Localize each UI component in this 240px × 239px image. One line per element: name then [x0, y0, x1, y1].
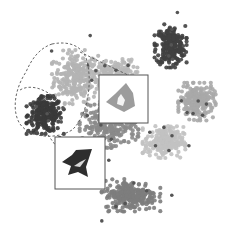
- scatter-point: [162, 22, 166, 26]
- scatter-point: [171, 63, 175, 67]
- scatter-point-outlier: [185, 111, 189, 115]
- scatter-point-outlier: [170, 27, 174, 31]
- scatter-point: [58, 81, 62, 85]
- scatter-point: [131, 65, 135, 69]
- scatter-point: [95, 87, 99, 91]
- scatter-point: [52, 129, 56, 133]
- scatter-point: [136, 127, 140, 131]
- scatter-point: [140, 192, 144, 196]
- scatter-point: [83, 48, 87, 52]
- scatter-point: [118, 201, 122, 205]
- scatter-point: [176, 101, 180, 105]
- scatter-point: [180, 53, 184, 57]
- scatter-point: [160, 36, 164, 40]
- scatter-point: [87, 131, 91, 135]
- scatter-point: [197, 113, 201, 117]
- scatter-point-outlier: [59, 120, 63, 124]
- scatter-point: [198, 81, 202, 85]
- scatter-point-outlier: [61, 106, 65, 110]
- scatter-plot: [0, 0, 240, 239]
- scatter-point: [171, 126, 175, 130]
- scatter-point-outlier: [123, 202, 127, 206]
- scatter-point: [25, 104, 29, 108]
- scatter-point: [54, 102, 58, 106]
- scatter-point: [91, 64, 95, 68]
- scatter-point: [89, 121, 93, 125]
- scatter-point-outlier: [180, 58, 184, 62]
- scatter-point-outlier: [99, 123, 103, 127]
- scatter-point: [127, 183, 131, 187]
- scatter-point: [178, 45, 182, 49]
- scatter-point: [181, 125, 185, 129]
- scatter-point-outlier: [154, 144, 158, 148]
- scatter-point: [93, 91, 97, 95]
- scatter-point: [194, 102, 198, 106]
- scatter-point: [161, 50, 165, 54]
- scatter-point: [115, 138, 119, 142]
- scatter-point: [207, 95, 211, 99]
- scatter-point: [158, 199, 162, 203]
- scatter-point: [150, 201, 154, 205]
- scatter-point-outlier: [201, 114, 205, 118]
- scatter-point: [63, 102, 67, 106]
- scatter-point: [210, 106, 214, 110]
- scatter-point: [64, 87, 68, 91]
- scatter-point: [185, 43, 189, 47]
- scatter-point: [181, 84, 185, 88]
- scatter-point-outlier: [114, 205, 118, 209]
- scatter-point: [38, 116, 42, 120]
- scatter-point: [158, 186, 162, 190]
- scatter-point: [61, 48, 65, 52]
- scatter-point: [191, 81, 195, 85]
- scatter-point: [130, 58, 134, 62]
- scatter-point-outlier: [196, 99, 200, 103]
- scatter-point: [142, 149, 146, 153]
- scatter-point-outlier: [170, 193, 174, 197]
- scatter-point-outlier: [132, 181, 136, 185]
- scatter-point: [172, 144, 176, 148]
- scatter-point: [159, 147, 163, 151]
- scatter-point: [122, 177, 126, 181]
- scatter-point: [83, 128, 87, 132]
- scatter-point: [42, 124, 46, 128]
- scatter-point: [93, 113, 97, 117]
- scatter-point: [59, 72, 63, 76]
- scatter-point-outlier: [47, 119, 51, 123]
- scatter-point-outlier: [191, 112, 195, 116]
- scatter-point: [92, 103, 96, 107]
- scatter-point: [144, 144, 148, 148]
- scatter-point: [144, 202, 148, 206]
- scatter-point: [158, 209, 162, 213]
- scatter-point: [164, 145, 168, 149]
- scatter-point: [95, 126, 99, 130]
- scatter-point: [76, 54, 80, 58]
- scatter-point: [107, 209, 111, 213]
- scatter-point-outlier: [88, 34, 92, 38]
- scatter-point: [46, 101, 50, 105]
- scatter-point-outlier: [180, 99, 184, 103]
- scatter-point: [110, 146, 114, 150]
- scatter-point: [77, 87, 81, 91]
- scatter-point: [121, 124, 125, 128]
- scatter-point: [93, 59, 97, 63]
- scatter-point: [80, 61, 84, 65]
- scatter-point: [135, 65, 139, 69]
- scatter-point: [165, 136, 169, 140]
- scatter-point: [70, 98, 74, 102]
- scatter-point: [82, 94, 86, 98]
- scatter-point: [135, 194, 139, 198]
- scatter-point: [58, 85, 62, 89]
- scatter-point: [113, 60, 117, 64]
- scatter-point: [166, 37, 170, 41]
- scatter-point: [155, 58, 159, 62]
- scatter-point: [176, 150, 180, 154]
- scatter-point: [109, 60, 113, 64]
- scatter-point: [96, 54, 100, 58]
- scatter-point: [202, 87, 206, 91]
- scatter-point: [67, 101, 71, 105]
- scatter-point: [167, 65, 171, 69]
- inset-upper: [99, 75, 148, 123]
- scatter-point: [115, 180, 119, 184]
- scatter-point: [135, 70, 139, 74]
- scatter-point: [25, 115, 29, 119]
